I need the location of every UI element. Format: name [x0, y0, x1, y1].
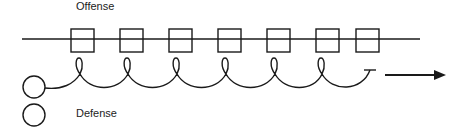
arrow-head-icon [434, 70, 446, 80]
offense-player-box [218, 29, 241, 52]
offense-player-box [71, 29, 94, 52]
offense-player-box [169, 29, 192, 52]
movement-loop-path [45, 58, 370, 88]
offense-players [71, 29, 379, 52]
offense-player-box [356, 29, 379, 52]
offense-player-box [316, 29, 339, 52]
defense-label: Defense [76, 107, 117, 119]
offense-label: Offense [76, 0, 114, 12]
offense-player-box [120, 29, 143, 52]
defense-player-circle [23, 76, 45, 98]
defense-player-circle [23, 104, 45, 126]
offense-defense-diagram [0, 0, 461, 129]
offense-player-box [267, 29, 290, 52]
